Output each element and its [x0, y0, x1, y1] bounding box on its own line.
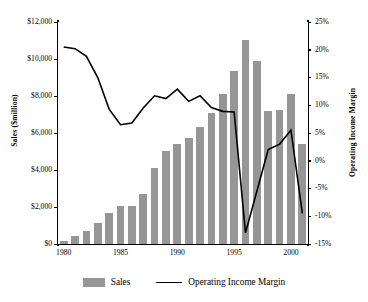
x-tick-label-1985: 1985	[101, 249, 141, 257]
legend-line-swatch-icon	[156, 282, 182, 283]
chart-container: Sales ($million) Operating Income Margin…	[0, 0, 368, 302]
y-tick-label-left-5: $10,000	[0, 55, 52, 63]
legend-item-sales: Sales	[83, 277, 131, 287]
y-tick-label-right-6: 15%	[315, 73, 355, 81]
y-tick-label-left-1: $2,000	[0, 203, 52, 211]
y-tick-label-right-2: -5%	[315, 184, 355, 192]
x-tick-label-1980: 1980	[44, 249, 84, 257]
chart-legend: Sales Operating Income Margin	[0, 272, 368, 292]
y-tick-label-right-4: 5%	[315, 129, 355, 137]
x-axis-line	[57, 244, 309, 245]
legend-item-operating-income-margin: Operating Income Margin	[156, 277, 285, 287]
y-tick-label-right-3: 0%	[315, 157, 355, 165]
legend-label-sales: Sales	[111, 277, 131, 287]
plot-area	[58, 22, 308, 244]
y-tick-label-right-5: 10%	[315, 101, 355, 109]
y-tick-label-left-4: $8,000	[0, 92, 52, 100]
y-tick-label-left-3: $6,000	[0, 129, 52, 137]
legend-bar-swatch-icon	[83, 278, 105, 287]
line-series-operating-income-margin	[58, 22, 308, 244]
y-tick-label-right-0: -15%	[315, 240, 355, 248]
y-axis-left-title: Sales ($million)	[10, 71, 19, 171]
x-tick-label-1995: 1995	[214, 249, 254, 257]
y-tick-label-right-1: -10%	[315, 212, 355, 220]
x-tick-label-1990: 1990	[157, 249, 197, 257]
x-tick-label-2000: 2000	[271, 249, 311, 257]
y-tick-label-right-8: 25%	[315, 18, 355, 26]
legend-label-operating-income-margin: Operating Income Margin	[188, 277, 285, 287]
y-tick-label-left-2: $4,000	[0, 166, 52, 174]
y-tick-label-left-0: $0	[0, 240, 52, 248]
margin-polyline	[64, 47, 303, 233]
y-tick-label-right-7: 20%	[315, 46, 355, 54]
y-tick-label-left-6: $12,000	[0, 18, 52, 26]
